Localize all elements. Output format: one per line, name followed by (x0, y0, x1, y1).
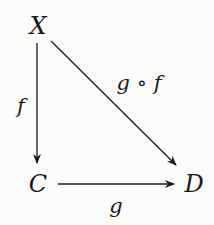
label-f: f (17, 96, 25, 117)
node-c: C (29, 172, 47, 196)
node-d: D (184, 172, 203, 196)
node-x: X (29, 14, 46, 38)
label-g-compose-f: g ∘ f (117, 73, 162, 94)
arrow-g-compose-f (51, 41, 176, 165)
label-g: g (109, 196, 122, 217)
